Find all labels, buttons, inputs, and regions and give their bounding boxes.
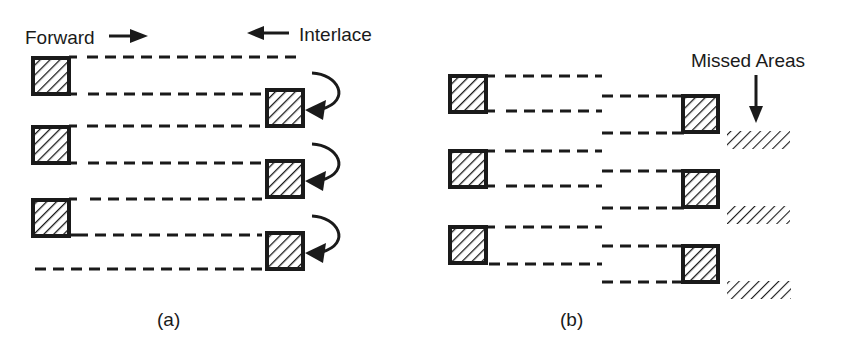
panel-a: Forward Interlace [25, 24, 372, 330]
interlace-arrow-icon [247, 26, 289, 40]
caption-a: (a) [157, 309, 180, 330]
scan-head-right-b-2 [683, 171, 718, 207]
missed-areas-arrow-icon [749, 75, 763, 123]
scan-head-left-3 [33, 200, 69, 236]
scan-lines-a [35, 57, 297, 269]
scan-head-right-1 [267, 90, 303, 126]
scan-head-right-b-1 [683, 96, 718, 132]
interlace-label: Interlace [299, 24, 372, 45]
scan-pattern-diagram: Forward Interlace [0, 0, 860, 345]
scan-head-right-2 [267, 161, 303, 197]
caption-b: (b) [560, 309, 583, 330]
missed-area-1 [727, 131, 790, 149]
scan-head-left-b-3 [450, 227, 486, 263]
scan-lines-b [486, 76, 684, 282]
missed-areas-label: Missed Areas [691, 50, 805, 71]
scan-head-left-b-1 [450, 76, 486, 112]
curved-arrow-icon-3 [305, 216, 339, 263]
curved-arrow-icon-1 [305, 73, 339, 120]
missed-area-2 [727, 206, 790, 224]
forward-arrow-icon [109, 29, 148, 43]
scan-head-right-b-3 [683, 246, 718, 282]
scan-head-left-b-2 [450, 151, 486, 187]
scan-head-right-3 [267, 233, 303, 269]
curved-arrow-icon-2 [305, 144, 339, 191]
scan-head-left-2 [33, 127, 69, 163]
scan-head-left-1 [33, 58, 69, 94]
forward-label: Forward [25, 27, 95, 48]
missed-area-3 [727, 281, 791, 299]
panel-b: Missed Areas [450, 50, 805, 330]
